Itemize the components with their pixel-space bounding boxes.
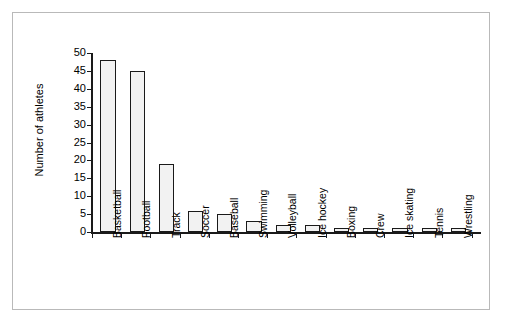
figure: Number of athletes 05101520253035404550 …	[0, 0, 507, 325]
y-tick-label: 30	[60, 118, 86, 130]
y-tick-label: 40	[60, 82, 86, 94]
y-tick-label: 0	[60, 225, 86, 237]
y-tick-mark	[87, 71, 93, 72]
x-tick-label: Swimming	[258, 190, 269, 238]
y-tick-mark	[87, 178, 93, 179]
y-axis-title: Number of athletes	[33, 0, 49, 55]
x-tick-label: Ice skating	[404, 188, 415, 238]
y-tick-mark	[87, 232, 93, 233]
x-tick-label: Tennis	[434, 208, 445, 238]
y-tick-mark	[87, 53, 93, 54]
x-tick-label: Boxing	[346, 206, 357, 238]
y-tick-mark	[87, 107, 93, 108]
x-tick-mark	[92, 234, 93, 238]
y-tick-mark	[87, 125, 93, 126]
y-axis-title-text: Number of athletes	[33, 55, 45, 205]
x-tick-label: Crew	[375, 213, 386, 238]
y-tick-mark	[87, 143, 93, 144]
y-tick-mark	[87, 214, 93, 215]
x-tick-label: Football	[141, 201, 152, 238]
y-tick-label: 25	[60, 136, 86, 148]
y-tick-mark	[87, 160, 93, 161]
y-tick-mark	[87, 196, 93, 197]
y-tick-label: 20	[60, 153, 86, 165]
x-tick-label: Soccer	[200, 205, 211, 238]
y-tick-label: 5	[60, 207, 86, 219]
x-tick-label: Volleyball	[287, 194, 298, 238]
y-tick-label: 35	[60, 100, 86, 112]
x-tick-label: Baseball	[229, 198, 240, 238]
x-tick-label: Track	[171, 212, 182, 238]
y-tick-label: 15	[60, 171, 86, 183]
y-tick-label: 50	[60, 46, 86, 58]
y-tick-label: 10	[60, 189, 86, 201]
y-tick-mark	[87, 89, 93, 90]
x-tick-label: Ice hockey	[317, 188, 328, 238]
y-tick-label: 45	[60, 64, 86, 76]
chart-frame: Number of athletes 05101520253035404550 …	[12, 12, 490, 310]
x-tick-label: Wrestling	[463, 194, 474, 238]
x-tick-label: Basketball	[112, 190, 123, 238]
